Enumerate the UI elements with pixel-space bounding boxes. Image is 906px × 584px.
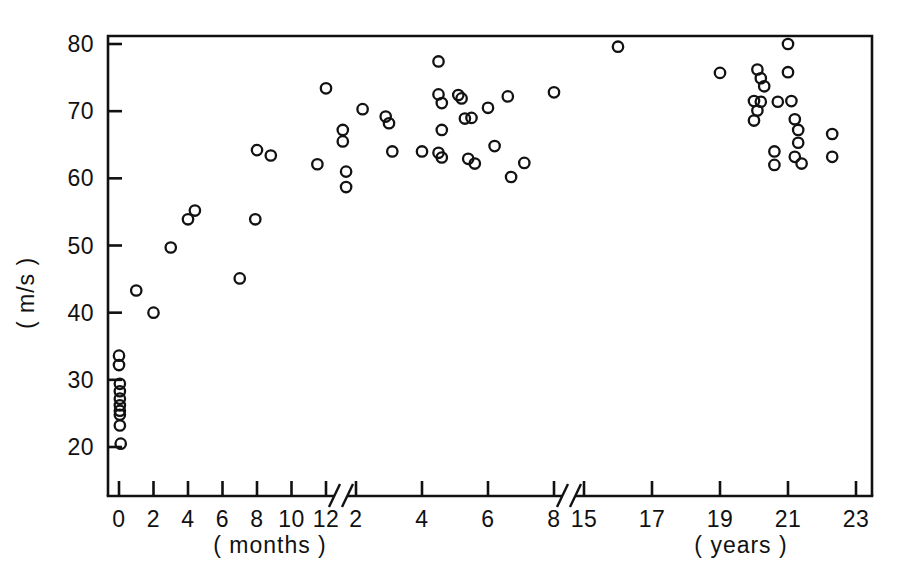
data-point — [503, 91, 513, 101]
data-point — [190, 205, 200, 215]
data-point — [341, 182, 351, 192]
data-point — [769, 160, 779, 170]
y-tick-label-50: 50 — [67, 233, 94, 259]
x-tick-label-years-early-6: 6 — [481, 506, 494, 532]
x-axis-title-years: ( years ) — [694, 532, 787, 558]
data-point — [437, 125, 447, 135]
data-point — [466, 113, 476, 123]
x-tick-label-years-late-17: 17 — [639, 506, 666, 532]
data-point — [131, 285, 141, 295]
data-point — [148, 307, 158, 317]
data-point — [793, 138, 803, 148]
data-point — [357, 104, 367, 114]
x-tick-label-years-early-8: 8 — [547, 506, 560, 532]
x-tick-label-months-6: 6 — [216, 506, 229, 532]
data-point — [250, 214, 260, 224]
data-point — [783, 67, 793, 77]
x-tick-label-months-4: 4 — [181, 506, 194, 532]
y-tick-label-40: 40 — [67, 300, 94, 326]
x-axis-tick-labels: 02468101224681517192123 — [112, 506, 869, 532]
data-point — [338, 125, 348, 135]
data-point — [790, 114, 800, 124]
data-point — [115, 420, 125, 430]
data-point — [793, 125, 803, 135]
x-axis-ticks — [119, 481, 856, 496]
x-tick-label-months-12: 12 — [313, 506, 340, 532]
x-tick-label-months-0: 0 — [112, 506, 125, 532]
x-tick-label-years-late-19: 19 — [707, 506, 734, 532]
x-tick-label-months-2: 2 — [147, 506, 160, 532]
data-point — [613, 41, 623, 51]
data-point — [235, 273, 245, 283]
data-point — [783, 39, 793, 49]
data-point — [773, 97, 783, 107]
y-axis-tick-labels: 20304050607080 — [67, 31, 94, 460]
data-point — [749, 115, 759, 125]
data-point — [266, 150, 276, 160]
y-tick-label-80: 80 — [67, 31, 94, 57]
scatter-data-points — [114, 39, 838, 449]
data-point — [417, 146, 427, 156]
x-tick-label-years-early-4: 4 — [415, 506, 428, 532]
data-point — [166, 242, 176, 252]
data-point — [312, 159, 322, 169]
x-tick-label-years-early-2: 2 — [349, 506, 362, 532]
chart-canvas: 20304050607080 02468101224681517192123 (… — [0, 0, 906, 584]
data-point — [252, 145, 262, 155]
data-point — [715, 68, 725, 78]
x-tick-label-months-10: 10 — [278, 506, 305, 532]
y-tick-label-30: 30 — [67, 367, 94, 393]
data-point — [341, 166, 351, 176]
data-point — [786, 96, 796, 106]
data-point — [827, 152, 837, 162]
data-point — [519, 158, 529, 168]
data-point — [489, 141, 499, 151]
scatter-chart-figure: 20304050607080 02468101224681517192123 (… — [0, 0, 906, 584]
y-tick-label-60: 60 — [67, 165, 94, 191]
data-point — [796, 158, 806, 168]
data-point — [321, 83, 331, 93]
data-point — [769, 146, 779, 156]
x-axis-title-months: ( months ) — [213, 532, 327, 558]
data-point — [433, 56, 443, 66]
data-point — [338, 136, 348, 146]
y-tick-label-70: 70 — [67, 98, 94, 124]
data-point — [506, 172, 516, 182]
data-point — [549, 87, 559, 97]
x-tick-label-years-late-23: 23 — [843, 506, 870, 532]
x-tick-label-years-late-21: 21 — [775, 506, 802, 532]
data-point — [387, 146, 397, 156]
x-tick-label-months-8: 8 — [250, 506, 263, 532]
data-point — [483, 103, 493, 113]
x-tick-label-years-late-15: 15 — [571, 506, 598, 532]
data-point — [827, 129, 837, 139]
y-axis-title: ( m/s ) — [13, 257, 39, 329]
y-tick-label-20: 20 — [67, 434, 94, 460]
